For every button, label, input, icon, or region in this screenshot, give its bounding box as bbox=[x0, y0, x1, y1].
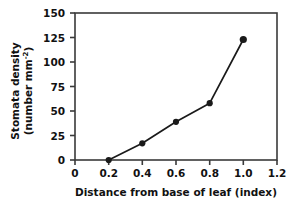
x-tick-label-0-6: 0.6 bbox=[167, 167, 186, 179]
data-series-stomata-density bbox=[106, 36, 247, 163]
x-axis: 0 0.2 0.4 0.6 0.8 1.0 1.2 Distance from … bbox=[71, 160, 286, 198]
y-axis-title-line2-suffix: ) bbox=[22, 47, 34, 52]
chart-figure: 0 25 50 75 100 125 150 Stomata density (… bbox=[0, 0, 300, 213]
data-point-marker bbox=[173, 119, 179, 125]
data-point-marker bbox=[240, 36, 247, 43]
data-point-marker bbox=[207, 100, 213, 106]
plot-frame bbox=[75, 13, 277, 160]
y-axis-title-line2: (number mm-2) bbox=[22, 47, 34, 136]
stomata-density-line-chart: 0 25 50 75 100 125 150 Stomata density (… bbox=[0, 0, 300, 213]
x-tick-label-0-4: 0.4 bbox=[133, 167, 152, 179]
data-point-marker bbox=[139, 140, 145, 146]
y-axis: 0 25 50 75 100 125 150 bbox=[43, 7, 75, 166]
y-tick-label-150: 150 bbox=[43, 7, 65, 19]
x-tick-label-0: 0 bbox=[71, 167, 78, 179]
y-tick-label-0: 0 bbox=[58, 154, 65, 166]
data-point-marker bbox=[106, 157, 112, 163]
y-tick-label-25: 25 bbox=[50, 130, 65, 142]
y-tick-label-125: 125 bbox=[43, 32, 65, 44]
x-tick-label-1-2: 1.2 bbox=[268, 167, 287, 179]
y-axis-title: Stomata density (number mm-2) bbox=[9, 42, 34, 140]
y-tick-label-50: 50 bbox=[50, 105, 65, 117]
x-tick-label-1-0: 1.0 bbox=[234, 167, 253, 179]
y-axis-title-line2-prefix: (number mm bbox=[22, 59, 34, 135]
series-line bbox=[109, 40, 244, 161]
y-axis-title-line1: Stomata density bbox=[9, 42, 21, 140]
x-axis-title: Distance from base of leaf (index) bbox=[75, 186, 277, 198]
y-axis-title-line2-sup: -2 bbox=[22, 51, 30, 59]
x-tick-label-0-2: 0.2 bbox=[99, 167, 118, 179]
x-tick-label-0-8: 0.8 bbox=[200, 167, 219, 179]
y-tick-label-75: 75 bbox=[50, 81, 65, 93]
y-tick-label-100: 100 bbox=[43, 56, 65, 68]
